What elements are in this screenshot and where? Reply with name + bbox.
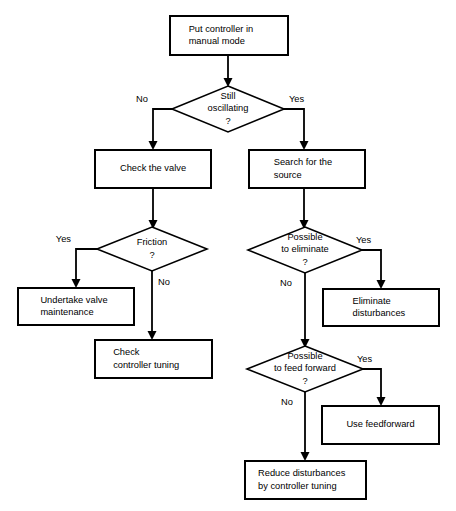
node-text-line: source	[274, 170, 302, 180]
node-text-line: Check	[113, 347, 140, 357]
node-text-line: ?	[225, 116, 230, 126]
node-text-line: maintenance	[40, 307, 93, 317]
node-text-line: Search for the	[274, 157, 332, 167]
node-search-for-the-source[interactable]: Search for thesource	[249, 150, 365, 188]
node-text-line: ?	[302, 257, 307, 267]
node-text-line: controller tuning	[113, 360, 179, 370]
connector-search-source-to-possible-eliminate	[300, 188, 309, 229]
node-use-feedforward[interactable]: Use feedforward	[322, 406, 439, 444]
node-text-line: Possible	[287, 351, 322, 361]
node-reduce-disturbances[interactable]: Reduce disturbancesby controller tuning	[245, 461, 366, 499]
edge-label-feedforward-no: No	[281, 397, 293, 407]
node-text-line: disturbances	[353, 308, 406, 318]
edge-label-eliminate-yes: Yes	[356, 235, 372, 245]
edge-label-feedforward-yes: Yes	[357, 354, 373, 364]
connector-manual-to-oscillating	[224, 55, 233, 87]
edge-label-oscillating-yes: Yes	[289, 94, 305, 104]
connector-eliminate-no-to-feed-forward	[301, 273, 310, 348]
node-undertake-valve-maintenance[interactable]: Undertake valvemaintenance	[18, 288, 134, 325]
node-possible-to-eliminate[interactable]: Possibleto eliminate?	[248, 227, 362, 273]
node-text-line: Possible	[287, 232, 322, 242]
node-text-line: Check the valve	[120, 163, 186, 173]
node-text-line: oscillating	[208, 103, 249, 113]
node-text-line: manual mode	[189, 36, 245, 46]
edge-label-eliminate-no: No	[280, 278, 292, 288]
arrowhead-icon	[149, 141, 158, 150]
node-text-line: Friction	[137, 237, 167, 247]
flowchart-canvas: Put controller inmanual modeStilloscilla…	[0, 0, 456, 511]
node-possible-to-feed-forward[interactable]: Possibleto feed forward?	[247, 346, 363, 392]
node-text-line: ?	[302, 376, 307, 386]
node-text-line: Undertake valve	[40, 295, 107, 305]
connector-feedforward-yes-to-use-feedforward	[363, 369, 386, 406]
node-text-line: Still	[221, 91, 236, 101]
process-shape	[249, 150, 365, 188]
node-still-oscillating[interactable]: Stilloscillating?	[172, 86, 284, 132]
connector-feedforward-no-to-reduce-disturbances	[301, 392, 310, 461]
arrowhead-icon	[300, 141, 309, 150]
node-eliminate-disturbances[interactable]: Eliminatedisturbances	[323, 289, 439, 326]
node-put-controller-manual[interactable]: Put controller inmanual mode	[170, 16, 288, 55]
connector-eliminate-yes-to-eliminate-disturbances	[362, 250, 386, 289]
node-check-the-valve[interactable]: Check the valve	[95, 150, 211, 188]
node-text-line: Reduce disturbances	[258, 468, 346, 478]
node-text-line: to feed forward	[274, 363, 336, 373]
edge-label-oscillating-no: No	[136, 94, 148, 104]
arrowhead-icon	[148, 331, 157, 340]
arrowhead-icon	[301, 452, 310, 461]
connector-friction-no-to-check-tuning	[148, 271, 157, 340]
node-text-line: Use feedforward	[346, 419, 414, 429]
node-friction[interactable]: Friction?	[97, 227, 207, 271]
node-text-line: Put controller in	[189, 24, 254, 34]
connector-oscillating-no-to-check-valve	[149, 109, 173, 150]
arrowhead-icon	[72, 279, 81, 288]
connector-friction-yes-to-maintenance	[72, 249, 98, 288]
node-text-line: ?	[149, 250, 154, 260]
node-check-controller-tuning[interactable]: Checkcontroller tuning	[95, 340, 212, 378]
arrowhead-icon	[377, 280, 386, 289]
node-text-line: by controller tuning	[258, 481, 337, 491]
flowchart-svg: Put controller inmanual modeStilloscilla…	[0, 0, 456, 511]
connector-oscillating-yes-to-search-source	[284, 109, 309, 150]
nodes-layer: Put controller inmanual modeStilloscilla…	[18, 16, 439, 499]
edge-label-friction-yes: Yes	[56, 234, 72, 244]
edge-label-friction-no: No	[158, 277, 170, 287]
node-text-line: Eliminate	[353, 296, 391, 306]
connector-check-valve-to-friction	[149, 188, 158, 229]
arrowhead-icon	[377, 397, 386, 406]
node-text-line: to eliminate	[281, 244, 329, 254]
